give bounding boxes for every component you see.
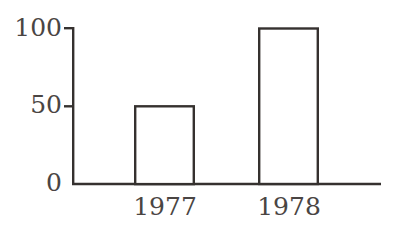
bar-1978[interactable]: [259, 29, 318, 185]
y-tick-label-100: 100: [0, 15, 62, 40]
y-tick-label-0: 0: [0, 170, 62, 195]
bar-1977[interactable]: [135, 106, 194, 184]
y-tick-label-50: 50: [0, 92, 62, 117]
x-tick-label-1978: 1978: [248, 194, 330, 219]
bar-chart: 100 50 0 1977 1978: [0, 0, 398, 231]
x-tick-label-1977: 1977: [124, 194, 206, 219]
